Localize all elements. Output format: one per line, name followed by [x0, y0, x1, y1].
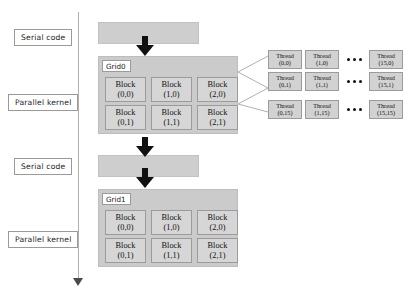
block-coord: (0,1) [118, 251, 134, 261]
block-label: Block [116, 241, 136, 251]
cuda-execution-diagram: Serial code Parallel kernel Serial code … [0, 0, 408, 297]
block-2-1: Block (2,1) [197, 105, 238, 130]
ellipsis-icon [339, 108, 369, 111]
arrow-head [136, 45, 154, 56]
block-coord: (0,0) [118, 223, 134, 233]
thread-coord: (0,1) [279, 82, 291, 89]
label-parallel-kernel-1: Parallel kernel [8, 94, 78, 111]
block-2-1: Block (2,1) [197, 238, 238, 263]
thread-15-15: Thread (15,15) [369, 100, 403, 119]
thread-0-15: Thread (0,15) [268, 100, 302, 119]
down-arrow-icon-1 [136, 36, 154, 56]
thread-coord: (1,1) [316, 82, 328, 89]
thread-1-0: Thread (1,0) [305, 50, 339, 69]
block-row: Block (0,0) Block (1,0) Block (2,0) [105, 77, 238, 102]
thread-row-2: Thread (0,15) Thread (1,15) Thread (15,1… [268, 100, 403, 119]
thread-coord: (1,0) [316, 60, 328, 67]
timeline-arrow-icon [73, 278, 83, 286]
block-coord: (1,1) [164, 118, 180, 128]
thread-1-1: Thread (1,1) [305, 72, 339, 91]
block-coord: (0,0) [118, 90, 134, 100]
block-label: Block [208, 213, 228, 223]
block-label: Block [162, 80, 182, 90]
grid-panel-1: Grid1 Block (0,0) Block (1,0) Block (2,0… [98, 189, 238, 267]
thread-row-1: Thread (0,1) Thread (1,1) Thread (15,1) [268, 72, 403, 91]
thread-coord: (0,0) [279, 60, 291, 67]
thread-detail-panel: Thread (0,0) Thread (1,0) Thread (15,0) … [268, 50, 406, 118]
block-2-0: Block (2,0) [197, 77, 238, 102]
block-coord: (1,0) [164, 223, 180, 233]
thread-0-1: Thread (0,1) [268, 72, 302, 91]
block-0-0: Block (0,0) [105, 210, 146, 235]
ellipsis-icon [339, 58, 369, 61]
block-label: Block [208, 80, 228, 90]
block-coord: (2,0) [210, 223, 226, 233]
thread-row-0: Thread (0,0) Thread (1,0) Thread (15,0) [268, 50, 403, 69]
arrow-head [136, 177, 154, 188]
down-arrow-icon-3 [136, 168, 154, 188]
thread-coord: (15,15) [377, 110, 395, 117]
block-0-1: Block (0,1) [105, 238, 146, 263]
thread-0-0: Thread (0,0) [268, 50, 302, 69]
block-coord: (2,0) [210, 90, 226, 100]
thread-1-15: Thread (1,15) [305, 100, 339, 119]
block-1-1: Block (1,1) [151, 238, 192, 263]
ellipsis-icon [339, 80, 369, 83]
block-label: Block [162, 241, 182, 251]
block-label: Block [116, 80, 136, 90]
thread-15-0: Thread (15,0) [369, 50, 403, 69]
label-parallel-kernel-2: Parallel kernel [8, 231, 78, 248]
block-row: Block (0,0) Block (1,0) Block (2,0) [105, 210, 238, 235]
block-coord: (2,1) [210, 251, 226, 261]
block-coord: (1,0) [164, 90, 180, 100]
thread-coord: (15,1) [379, 82, 394, 89]
block-label: Block [116, 108, 136, 118]
block-label: Block [162, 108, 182, 118]
block-1-0: Block (1,0) [151, 77, 192, 102]
grid-title-0: Grid0 [102, 60, 131, 72]
block-row: Block (0,1) Block (1,1) Block (2,1) [105, 105, 238, 130]
block-label: Block [208, 108, 228, 118]
block-0-0: Block (0,0) [105, 77, 146, 102]
thread-coord: (0,15) [278, 110, 293, 117]
arrow-head [136, 146, 154, 157]
thread-coord: (15,0) [379, 60, 394, 67]
block-1-1: Block (1,1) [151, 105, 192, 130]
block-row: Block (0,1) Block (1,1) Block (2,1) [105, 238, 238, 263]
block-label: Block [208, 241, 228, 251]
block-coord: (1,1) [164, 251, 180, 261]
block-2-0: Block (2,0) [197, 210, 238, 235]
label-serial-code-2: Serial code [14, 158, 72, 175]
block-coord: (0,1) [118, 118, 134, 128]
block-coord: (2,1) [210, 118, 226, 128]
thread-15-1: Thread (15,1) [369, 72, 403, 91]
block-0-1: Block (0,1) [105, 105, 146, 130]
grid-title-1: Grid1 [102, 193, 131, 205]
thread-coord: (1,15) [315, 110, 330, 117]
grid-panel-0: Grid0 Block (0,0) Block (1,0) Block (2,0… [98, 56, 238, 134]
block-label: Block [116, 213, 136, 223]
block-1-0: Block (1,0) [151, 210, 192, 235]
down-arrow-icon-2 [136, 137, 154, 157]
block-label: Block [162, 213, 182, 223]
label-serial-code-1: Serial code [14, 29, 72, 46]
